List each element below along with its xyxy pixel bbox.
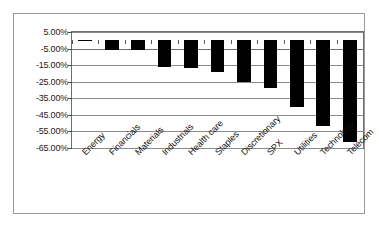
bar-utilities: [290, 40, 304, 107]
y-axis-tick-label: -65.00%: [36, 143, 68, 153]
y-axis-tick-label: -25.00%: [36, 77, 68, 87]
chart-figure: 5.00%-5.00%-15.00%-25.00%-35.00%-45.00%-…: [13, 13, 365, 214]
y-axis-tick-mark: [68, 148, 72, 149]
bar-industrials: [158, 40, 172, 67]
x-axis-tick-mark: [98, 40, 99, 44]
x-axis-tick-mark: [178, 40, 179, 44]
x-axis-tick-mark: [337, 40, 338, 44]
y-axis-tick-label: -15.00%: [36, 60, 68, 70]
y-axis-tick-mark: [68, 115, 72, 116]
x-axis-labels: EnergyFinancialsMaterialsIndustrialsHeal…: [71, 150, 364, 212]
x-axis-tick-mark: [125, 40, 126, 44]
x-axis-tick-mark: [151, 40, 152, 44]
y-axis-tick-label: -5.00%: [41, 44, 68, 54]
x-axis-tick-mark: [231, 40, 232, 44]
x-axis-tick-mark: [204, 40, 205, 44]
bar-discretionary: [237, 40, 251, 81]
x-axis-tick-mark: [284, 40, 285, 44]
y-axis-tick-mark: [68, 32, 72, 33]
y-axis-tick-mark: [68, 82, 72, 83]
bar-energy: [78, 40, 92, 41]
y-axis-tick-label: -55.00%: [36, 126, 68, 136]
y-axis-tick-label: 5.00%: [43, 27, 68, 37]
y-axis-tick-mark: [68, 65, 72, 66]
bar-spx: [264, 40, 278, 88]
x-axis-tick-mark: [257, 40, 258, 44]
y-axis-tick-mark: [68, 131, 72, 132]
bar-technology: [316, 40, 330, 126]
y-axis-tick-label: -35.00%: [36, 93, 68, 103]
bar-financials: [105, 40, 119, 50]
y-axis-tick-mark: [68, 98, 72, 99]
y-axis-tick-label: -45.00%: [36, 110, 68, 120]
bar-staples: [211, 40, 225, 71]
x-axis-tick-mark: [72, 40, 73, 44]
y-axis-tick-mark: [68, 49, 72, 50]
gridline: [72, 32, 363, 33]
bar-health-care: [184, 40, 198, 67]
x-axis-tick-mark: [310, 40, 311, 44]
bar-materials: [131, 40, 145, 50]
